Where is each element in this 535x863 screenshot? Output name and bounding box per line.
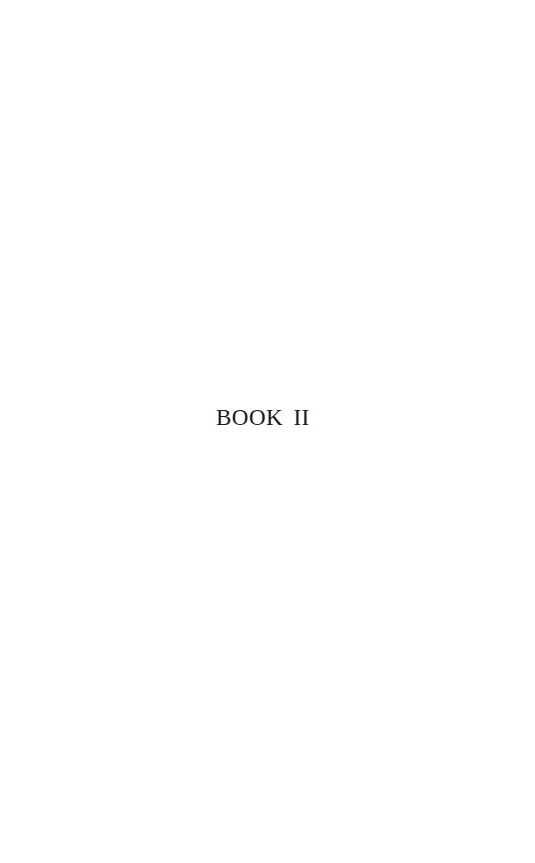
book-title-heading: BOOK II [216, 404, 310, 432]
document-page: BOOK II [0, 0, 535, 863]
